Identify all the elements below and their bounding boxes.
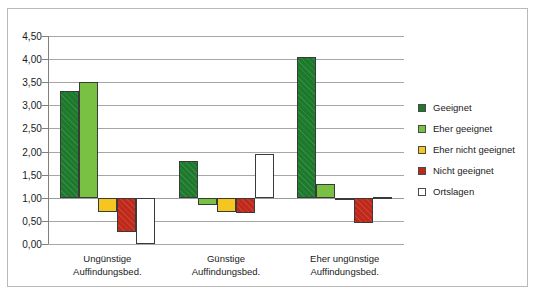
bar xyxy=(297,57,316,198)
bar xyxy=(354,198,373,223)
legend-item-label: Geeignet xyxy=(433,102,472,113)
gridline xyxy=(48,152,404,153)
legend-item[interactable]: Geeignet xyxy=(418,97,530,118)
y-axis-tick-label: 1,00 xyxy=(2,192,42,203)
bar xyxy=(98,198,117,212)
y-axis-tick xyxy=(42,221,48,222)
bar xyxy=(316,184,335,198)
bar xyxy=(255,154,274,198)
bar xyxy=(117,198,136,233)
gridline xyxy=(48,128,404,129)
y-axis-tick-label: 2,00 xyxy=(2,146,42,157)
y-axis-tick-label: 1,50 xyxy=(2,169,42,180)
y-axis-tick xyxy=(42,175,48,176)
gridline xyxy=(48,175,404,176)
x-axis-category-label-line: Auffindungsbed. xyxy=(273,265,416,278)
gridline xyxy=(48,59,404,60)
legend-item-label: Eher geeignet xyxy=(433,123,492,134)
bar xyxy=(236,198,255,213)
gridline xyxy=(48,244,404,245)
bar xyxy=(373,197,392,199)
y-axis-tick xyxy=(42,59,48,60)
legend-item-label: Nicht geeignet xyxy=(433,165,494,176)
gridline xyxy=(48,36,404,37)
y-axis-labels: 4,504,003,503,002,502,001,501,000,500,00 xyxy=(0,36,42,244)
legend-item[interactable]: Eher nicht geeignet xyxy=(418,139,530,160)
legend-swatch-icon xyxy=(418,188,426,196)
bar xyxy=(179,161,198,198)
legend-item[interactable]: Eher geeignet xyxy=(418,118,530,139)
bar xyxy=(217,198,236,212)
chart-legend: GeeignetEher geeignetEher nicht geeignet… xyxy=(418,97,530,202)
legend-item-label: Ortslagen xyxy=(433,186,474,197)
y-axis-tick-label: 4,50 xyxy=(2,31,42,42)
y-axis-line xyxy=(48,36,49,244)
y-axis-tick xyxy=(42,244,48,245)
legend-item-label: Eher nicht geeignet xyxy=(433,144,515,155)
y-axis-tick xyxy=(42,198,48,199)
bar xyxy=(335,198,354,200)
legend-swatch-icon xyxy=(418,104,426,112)
y-axis-tick xyxy=(42,128,48,129)
screenshot-root: 4,504,003,503,002,502,001,501,000,500,00… xyxy=(0,0,537,298)
plot-area xyxy=(48,36,404,244)
y-axis-tick xyxy=(42,152,48,153)
legend-swatch-icon xyxy=(418,167,426,175)
bar xyxy=(198,198,217,205)
legend-swatch-icon xyxy=(418,125,426,133)
y-axis-tick-label: 2,50 xyxy=(2,123,42,134)
legend-swatch-icon xyxy=(418,146,426,154)
bar-chart: 4,504,003,503,002,502,001,501,000,500,00… xyxy=(0,0,537,298)
y-axis-tick-label: 0,50 xyxy=(2,215,42,226)
bar xyxy=(60,91,79,197)
x-axis-category-label: Eher ungünstigeAuffindungsbed. xyxy=(273,252,416,278)
y-axis-tick-label: 4,00 xyxy=(2,54,42,65)
y-axis-tick xyxy=(42,105,48,106)
y-axis-tick-label: 3,00 xyxy=(2,100,42,111)
y-axis-tick xyxy=(42,82,48,83)
bar xyxy=(136,198,155,244)
y-axis-tick xyxy=(42,36,48,37)
y-axis-tick-label: 3,50 xyxy=(2,77,42,88)
legend-item[interactable]: Nicht geeignet xyxy=(418,160,530,181)
bar xyxy=(79,82,98,198)
gridline xyxy=(48,221,404,222)
gridline xyxy=(48,105,404,106)
y-axis-tick-label: 0,00 xyxy=(2,239,42,250)
x-axis-category-label-line: Eher ungünstige xyxy=(273,252,416,265)
gridline xyxy=(48,82,404,83)
legend-item[interactable]: Ortslagen xyxy=(418,181,530,202)
